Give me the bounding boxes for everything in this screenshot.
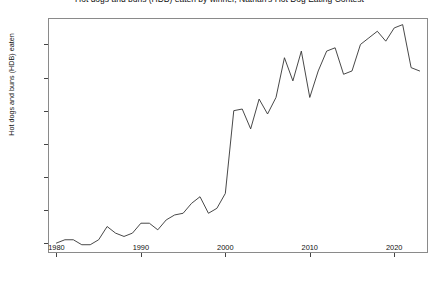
chart-figure: Hot dogs and buns (HDB) eaten by winner,… (0, 0, 439, 285)
y-axis-tick (44, 111, 48, 112)
y-axis-tick (44, 44, 48, 45)
data-line-series (48, 18, 428, 253)
y-axis-tick (44, 78, 48, 79)
x-axis-tick (310, 253, 311, 257)
y-axis-tick (44, 210, 48, 211)
y-axis-tick (44, 144, 48, 145)
x-axis-tick-label: 2020 (374, 243, 414, 252)
y-axis-tick (44, 177, 48, 178)
plot-area (48, 18, 428, 253)
y-axis-label: Hot dogs and buns (HDB) eaten (7, 5, 16, 165)
x-axis-tick (56, 253, 57, 257)
x-axis-tick (141, 253, 142, 257)
x-axis-tick-label: 1980 (36, 243, 76, 252)
x-axis-tick-label: 2000 (205, 243, 245, 252)
x-axis-tick-label: 1990 (121, 243, 161, 252)
x-axis-tick (225, 253, 226, 257)
x-axis-tick-label: 2010 (290, 243, 330, 252)
chart-title: Hot dogs and buns (HDB) eaten by winner,… (0, 0, 439, 4)
x-axis-tick (394, 253, 395, 257)
